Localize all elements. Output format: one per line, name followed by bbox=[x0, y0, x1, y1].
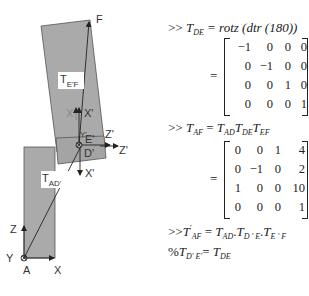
label-z-prime-1: Z' bbox=[105, 128, 114, 140]
label-e-prime: E' bbox=[85, 133, 94, 145]
kinematic-diagram: F TE'F X X' Y' E' Z' Z' D' X' TAD' Z Y A… bbox=[0, 0, 160, 296]
label-f: F bbox=[96, 13, 103, 25]
matrix-taf: = 0014 0−102 10010 0001 bbox=[210, 141, 308, 219]
label-x-prime-upper: X' bbox=[84, 107, 93, 119]
joint-block bbox=[56, 136, 106, 164]
label-x-prime-lower: X' bbox=[85, 167, 94, 179]
label-y: Y bbox=[6, 252, 14, 264]
equation-taf: >> TAF = TADTDETEF bbox=[168, 120, 270, 137]
equals-sign: = bbox=[210, 171, 217, 187]
label-x-upper: X bbox=[66, 107, 74, 119]
lower-link bbox=[24, 147, 55, 258]
label-x: X bbox=[54, 264, 62, 276]
label-z-prime-2: Z' bbox=[119, 144, 128, 156]
equation-tde: >> TDE = rotz (dtr (180)) bbox=[168, 20, 297, 37]
matrix-tde: = −1000 0−100 0010 0001 bbox=[212, 38, 308, 116]
comment-tde-equivalence: %TD' E'= TDE bbox=[168, 244, 231, 261]
equation-taf-prime: >>T′AF = TAD.TD ' E.TE ' F bbox=[168, 224, 286, 241]
label-a: A bbox=[23, 264, 31, 276]
equals-sign: = bbox=[210, 68, 217, 84]
label-z: Z bbox=[10, 223, 17, 235]
label-d-prime: D' bbox=[84, 147, 94, 159]
